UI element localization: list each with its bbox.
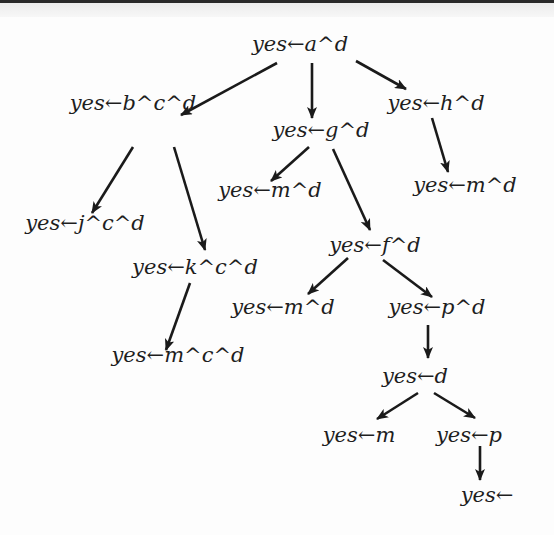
node-k-c-d: yes←k^c^d bbox=[132, 257, 258, 278]
node-m-d-under-f: yes←m^d bbox=[231, 297, 335, 318]
node-j-c-d: yes←j^c^d bbox=[25, 213, 145, 234]
diagram-canvas: yes←a^d yes←b^c^d yes←g^d yes←h^d yes←m^… bbox=[0, 0, 554, 535]
node-root: yes←a^d bbox=[252, 34, 348, 55]
arrow-n8-to-n10 bbox=[308, 258, 348, 294]
node-m-c-d: yes←m^c^d bbox=[112, 345, 245, 366]
node-p: yes←p bbox=[436, 425, 502, 446]
node-h-d: yes←h^d bbox=[387, 93, 484, 114]
arrow-n13-to-n14 bbox=[377, 393, 418, 419]
node-m-d-under-g: yes←m^d bbox=[218, 180, 322, 201]
node-m-d-under-h: yes←m^d bbox=[413, 175, 517, 196]
arrow-n2-to-n7 bbox=[92, 147, 133, 213]
node-m: yes←m bbox=[323, 425, 396, 446]
arrow-n3-to-n8 bbox=[333, 149, 370, 230]
arrow-n4-to-n6 bbox=[432, 118, 448, 172]
node-b-c-d: yes←b^c^d bbox=[70, 93, 197, 114]
node-g-d: yes←g^d bbox=[272, 120, 369, 141]
node-d: yes←d bbox=[382, 366, 448, 387]
node-p-d: yes←p^d bbox=[388, 297, 485, 318]
arrow-n8-to-n11 bbox=[383, 260, 432, 297]
arrow-n13-to-n15 bbox=[434, 393, 475, 418]
node-f-d: yes←f^d bbox=[329, 235, 420, 256]
node-empty-success: yes← bbox=[461, 485, 514, 506]
edge-layer bbox=[0, 0, 554, 535]
arrow-n2-to-n9 bbox=[174, 147, 205, 250]
arrow-n3-to-n5 bbox=[271, 147, 309, 181]
arrow-n1-to-n4 bbox=[356, 61, 406, 89]
arrow-n9-to-n12 bbox=[166, 283, 190, 350]
